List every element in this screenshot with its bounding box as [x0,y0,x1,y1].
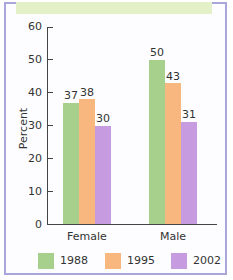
y-tick-mark [47,92,53,93]
y-tick-mark [47,125,53,126]
value-label: 30 [92,112,114,125]
value-label: 31 [178,108,200,121]
y-tick-mark [47,27,53,28]
value-label: 38 [76,86,98,99]
bar-male-1988 [149,60,165,224]
header-band [16,2,212,14]
bar-male-2002 [181,122,197,224]
y-tick-mark [47,59,53,60]
bar-male-1995 [165,83,181,224]
legend-swatch-1995 [105,253,121,269]
y-tick-30: 30 [20,119,42,132]
value-label: 43 [162,70,184,83]
legend-swatch-1988 [38,253,54,269]
value-label: 50 [146,46,168,59]
legend-label-2002: 2002 [193,254,221,267]
y-tick-50: 50 [20,53,42,66]
y-tick-0: 0 [20,218,42,231]
category-label-male: Male [143,230,203,243]
category-label-female: Female [57,230,117,243]
y-tick-mark [47,158,53,159]
y-tick-20: 20 [20,152,42,165]
y-tick-40: 40 [20,86,42,99]
bar-female-2002 [95,126,111,224]
y-tick-60: 60 [20,20,42,33]
y-tick-10: 10 [20,185,42,198]
legend-label-1988: 1988 [60,254,88,267]
legend-swatch-2002 [171,253,187,269]
x-axis [47,224,217,225]
y-tick-mark [47,191,53,192]
legend-label-1995: 1995 [127,254,155,267]
bar-female-1988 [63,103,79,224]
